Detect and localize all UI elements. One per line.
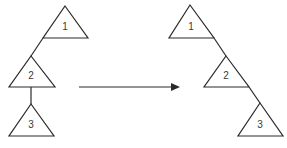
arrowhead-icon	[171, 83, 180, 91]
transform-arrow	[79, 83, 180, 91]
edge-1-to-2-after	[214, 38, 226, 56]
tree-transformation-diagram: 1 2 3 1 2 3	[0, 0, 287, 148]
node-3-after: 3	[238, 103, 283, 136]
node-3-before: 3	[9, 104, 54, 136]
edge-1-to-2-before	[31, 38, 43, 56]
node-label: 2	[223, 70, 229, 81]
node-2-after: 2	[204, 56, 249, 87]
node-label: 3	[257, 119, 263, 130]
node-1-after: 1	[169, 5, 214, 38]
tree-before: 1 2 3	[9, 6, 88, 136]
node-2-before: 2	[9, 56, 55, 87]
node-label: 1	[188, 21, 194, 32]
edge-2-to-3-after	[249, 87, 260, 103]
node-label: 3	[28, 119, 34, 130]
tree-after: 1 2 3	[169, 5, 283, 136]
node-label: 2	[28, 70, 34, 81]
node-label: 1	[62, 21, 68, 32]
node-1-before: 1	[43, 6, 88, 38]
